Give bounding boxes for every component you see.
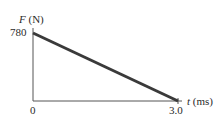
x-tick-3-label: 3.0 <box>169 105 183 116</box>
y-axis-variable: F <box>19 13 26 25</box>
x-tick-0: 0 <box>30 105 36 116</box>
y-tick-780: 780 <box>10 27 27 38</box>
y-axis-label: F (N) <box>19 14 44 25</box>
x-axis-unit: (ms) <box>193 95 213 107</box>
force-line <box>33 33 178 101</box>
y-axis-unit: (N) <box>28 13 43 25</box>
x-axis-label: t (ms) <box>187 96 213 107</box>
x-axis-variable: t <box>187 95 190 107</box>
